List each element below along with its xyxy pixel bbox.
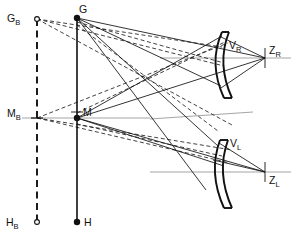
point-marker-h bbox=[74, 219, 80, 225]
label-z-l: ZL bbox=[269, 174, 280, 189]
point-marker-g bbox=[74, 15, 80, 21]
ray-g-to-mirror-r-low bbox=[77, 18, 221, 86]
label-z-r: ZR bbox=[269, 44, 281, 59]
ray-m-to-mirror-r-top bbox=[77, 36, 222, 118]
optical-ray-diagram: GB G MB M HB H VR ZR VL ZL bbox=[0, 0, 293, 240]
curved-mirror-left bbox=[215, 140, 232, 208]
ray-mirror-r-top-to-zr bbox=[221, 37, 265, 58]
dashed-ray-mb-2 bbox=[37, 118, 232, 150]
label-m-b: MB bbox=[7, 107, 21, 122]
ray-m-to-mirror-l-low bbox=[77, 118, 224, 166]
ray-g-to-mirror-l-top bbox=[77, 18, 218, 146]
point-marker-m bbox=[74, 115, 80, 121]
dashed-ray-gb-3 bbox=[37, 19, 232, 125]
ray-mirror-l-mid-to-zl bbox=[213, 160, 265, 172]
ray-m-to-zr bbox=[77, 58, 265, 118]
dashed-ray-m-down bbox=[77, 124, 222, 156]
label-h: H bbox=[84, 216, 92, 228]
left-upper-axis bbox=[150, 112, 253, 119]
label-g-b: GB bbox=[7, 12, 20, 27]
diagram-canvas: GB G MB M HB H VR ZR VL ZL bbox=[0, 0, 293, 240]
dashed-ray-gb-2 bbox=[37, 19, 224, 66]
label-h-b: HB bbox=[6, 216, 19, 231]
dashed-ray-bundle bbox=[37, 19, 232, 163]
label-v-r: VR bbox=[229, 39, 242, 54]
diagram-labels: GB G MB M HB H VR ZR VL ZL bbox=[6, 3, 281, 231]
dashed-ray-mb-3 bbox=[37, 118, 230, 163]
label-g: G bbox=[79, 3, 87, 15]
ray-mirror-r-bot-to-zr bbox=[221, 58, 265, 88]
point-marker-gb bbox=[35, 17, 40, 22]
point-marker-hb bbox=[35, 220, 40, 225]
label-m: M bbox=[83, 106, 92, 118]
solid-ray-bundle bbox=[77, 18, 265, 190]
label-v-l: VL bbox=[230, 137, 241, 152]
